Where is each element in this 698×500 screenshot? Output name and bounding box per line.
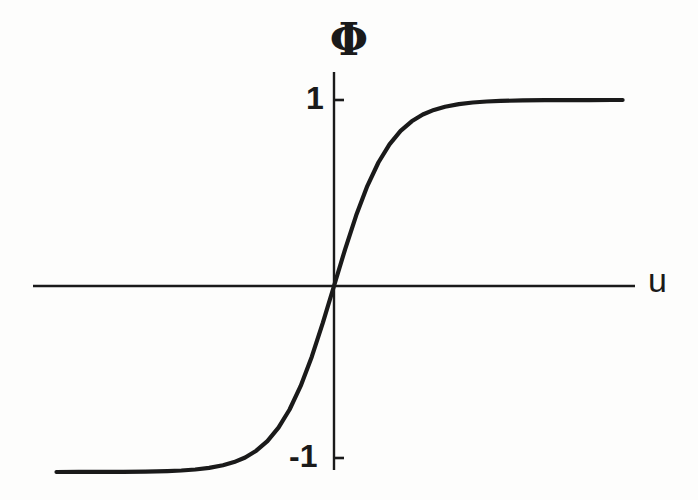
y-axis-title-phi: Φ bbox=[0, 18, 698, 62]
x-axis-title-u: u bbox=[648, 263, 667, 297]
y-tick-label-positive-one: 1 bbox=[306, 82, 324, 114]
axes-group bbox=[33, 72, 635, 470]
y-tick-label-negative-one: -1 bbox=[289, 440, 317, 472]
plot-svg bbox=[0, 0, 698, 500]
figure-canvas: Φ u 1 -1 bbox=[0, 0, 698, 500]
